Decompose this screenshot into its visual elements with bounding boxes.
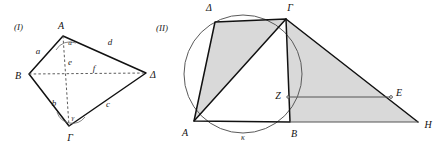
angle-label-alpha: α xyxy=(68,39,72,47)
point-marker-Z xyxy=(287,96,289,98)
point-marker-E xyxy=(390,96,393,99)
vertex-label-gamma-2: Γ xyxy=(286,2,293,13)
quadrilateral-outline xyxy=(29,36,146,126)
figure-one-caption: (I) xyxy=(14,22,23,32)
vertex-label-h: H xyxy=(423,119,432,130)
angle-arc-at-A xyxy=(56,42,76,50)
vertex-label-Gamma: Γ xyxy=(66,132,73,143)
diagonal-f-line xyxy=(29,73,146,74)
angle-label-gamma: γ xyxy=(72,114,75,122)
side-label-d: d xyxy=(108,37,113,47)
vertex-label-b-2: B xyxy=(291,128,297,139)
vertex-label-A: A xyxy=(57,20,65,31)
diagonal-label-e: e xyxy=(68,57,72,67)
geometry-figure-canvas: (I) A B Γ Δ a b c d e f α γ (II) xyxy=(0,0,444,150)
diagonal-label-f: f xyxy=(93,63,97,73)
vertex-label-e: E xyxy=(395,87,402,98)
figure-two-caption: (II) xyxy=(156,23,168,33)
side-label-a: a xyxy=(36,46,41,56)
diagonal-e-line xyxy=(63,36,69,126)
side-label-c: c xyxy=(106,99,110,109)
figure-two-group: (II) Δ Γ A B Z E H κ xyxy=(156,2,432,142)
vertex-label-Delta: Δ xyxy=(149,69,156,80)
vertex-label-a-2: A xyxy=(181,127,189,138)
circle-label-kappa: κ xyxy=(241,133,245,142)
vertex-label-delta-2: Δ xyxy=(205,2,212,13)
figure-one-group: (I) A B Γ Δ a b c d e f α γ xyxy=(14,20,156,143)
vertex-label-z: Z xyxy=(275,90,281,101)
vertex-label-B: B xyxy=(15,70,21,81)
side-label-b: b xyxy=(52,98,57,108)
